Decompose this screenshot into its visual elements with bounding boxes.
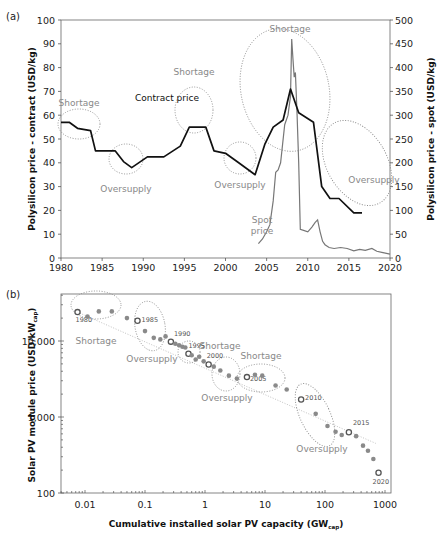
data-point xyxy=(253,372,258,377)
year-marker xyxy=(244,374,249,379)
data-point xyxy=(371,457,376,462)
annotation-label: Shortage xyxy=(200,341,241,351)
annotation-ellipse xyxy=(131,299,169,353)
panel-b-chart: (b) 0.010.11101001000 1001,00010,000 Sho… xyxy=(6,289,397,531)
year-label: 1985 xyxy=(142,316,159,324)
y2-tick-label: 250 xyxy=(395,134,413,145)
y2-tick-label: 0 xyxy=(395,253,401,264)
annotation-label: Oversupply xyxy=(214,180,266,190)
figure: (a) 198019851990199520002005201020152020… xyxy=(0,0,442,540)
x-tick-label: 1980 xyxy=(49,262,73,273)
annotation-label: Shortage xyxy=(270,24,311,34)
y-tick-label: 10 xyxy=(43,229,55,240)
year-marker xyxy=(135,318,140,323)
spot-price-label-line2: price xyxy=(251,226,274,236)
x-tick-label: 2015 xyxy=(337,262,361,273)
year-label: 1990 xyxy=(174,330,191,338)
annotation-ellipse xyxy=(229,20,341,160)
y2-tick-label: 300 xyxy=(395,110,413,121)
data-point xyxy=(333,429,338,434)
y2-tick-label: 400 xyxy=(395,62,413,73)
data-point xyxy=(110,309,115,314)
data-point xyxy=(143,329,148,334)
y-tick-label: 50 xyxy=(43,134,55,145)
data-point xyxy=(125,316,130,321)
y-tick-label: 0 xyxy=(49,253,55,264)
annotation-label: Oversupply xyxy=(348,175,400,185)
x-tick-label: 100 xyxy=(316,499,334,510)
data-point xyxy=(227,373,232,378)
annotation-ellipse xyxy=(109,144,143,174)
year-label: 1995 xyxy=(188,342,205,350)
annotation-ellipse xyxy=(212,357,240,391)
spot-price-label-line1: Spot xyxy=(252,215,273,225)
y-tick-label: 60 xyxy=(43,110,55,121)
data-point xyxy=(218,368,223,373)
x-tick-label: 10 xyxy=(259,499,271,510)
x-tick-label: 2020 xyxy=(378,262,402,273)
panel-b-annotation-ellipses: ShortageOversupplyShortageOversupplyShor… xyxy=(71,291,348,454)
y-tick-label: 100 xyxy=(37,15,55,26)
contract-price-label: Contract price xyxy=(135,93,199,103)
y2-tick-label: 200 xyxy=(395,157,413,168)
annotation-ellipse xyxy=(58,109,100,139)
y-tick-label: 20 xyxy=(43,205,55,216)
panel-b-x-axis-title: Cumulative installed solar PV capacity (… xyxy=(109,519,344,531)
data-point xyxy=(273,383,278,388)
x-tick-label: 1995 xyxy=(172,262,196,273)
x-tick-label: 0.1 xyxy=(137,499,152,510)
year-marker xyxy=(346,430,351,435)
year-marker xyxy=(206,362,211,367)
annotation-label: Shortage xyxy=(174,67,215,77)
data-point xyxy=(361,443,366,448)
annotation-label: Oversupply xyxy=(100,184,152,194)
x-tick-label: 1000 xyxy=(373,499,397,510)
x-tick-label: 1990 xyxy=(131,262,155,273)
trend-line xyxy=(78,312,376,443)
data-point xyxy=(313,412,318,417)
year-marker xyxy=(376,470,381,475)
data-point xyxy=(235,376,240,381)
panel-b-y-axis-title: Solar PV module price (USD/kWcap) xyxy=(27,308,39,483)
x-tick-label: 2005 xyxy=(255,262,279,273)
y2-tick-label: 450 xyxy=(395,38,413,49)
panel-b-label: (b) xyxy=(6,289,20,300)
x-tick-label: 2010 xyxy=(296,262,320,273)
panel-a-y-axis-left-title: Polysilicon price - contract (USD/kg) xyxy=(27,47,37,231)
year-label: 2000 xyxy=(207,352,224,360)
annotation-label: Oversupply xyxy=(201,393,253,403)
annotation-label: Oversupply xyxy=(296,444,348,454)
data-point xyxy=(97,309,102,314)
data-point xyxy=(158,337,163,342)
y-tick-label: 80 xyxy=(43,62,55,73)
data-point xyxy=(354,434,359,439)
y-tick-label: 40 xyxy=(43,157,55,168)
panel-a-y-axis-right: 050100150200250300350400450500 xyxy=(390,15,413,264)
annotation-label: Shortage xyxy=(241,351,282,361)
y-tick-label: 30 xyxy=(43,181,55,192)
year-marker xyxy=(299,397,304,402)
annotation-ellipse xyxy=(224,142,256,174)
y2-tick-label: 500 xyxy=(395,15,413,26)
data-point xyxy=(189,353,194,358)
x-tick-label: 1 xyxy=(202,499,208,510)
data-point xyxy=(284,387,289,392)
data-point xyxy=(183,345,188,350)
data-point xyxy=(366,448,371,453)
panel-a-y-axis-right-title: Polysilicon price - spot (USD/kg) xyxy=(426,57,436,220)
annotation-label: Shortage xyxy=(59,98,100,108)
x-tick-label: 1985 xyxy=(90,262,114,273)
y-tick-label: 70 xyxy=(43,86,55,97)
data-point xyxy=(325,424,330,429)
y2-tick-label: 50 xyxy=(395,229,407,240)
y-tick-label: 90 xyxy=(43,38,55,49)
annotation-label: Oversupply xyxy=(126,354,178,364)
data-point xyxy=(260,373,265,378)
year-label: 2020 xyxy=(373,478,390,486)
data-point xyxy=(201,359,206,364)
y-tick-label: 100 xyxy=(37,488,55,499)
spot-price-line xyxy=(258,39,390,254)
panel-a-y-axis-left: 0102030405060708090100 xyxy=(37,15,61,264)
data-point xyxy=(211,364,216,369)
data-point xyxy=(197,354,202,359)
